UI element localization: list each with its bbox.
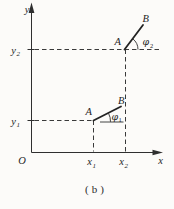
lower-angle-arc: [109, 113, 111, 122]
figure-caption: (b): [85, 183, 107, 196]
x1-label-sub: 1: [93, 162, 97, 170]
lower-point-a-label: A: [85, 106, 93, 117]
y2-label-base: y: [10, 45, 16, 56]
x2-label-base: x: [118, 156, 124, 167]
upper-point-b-label: B: [143, 13, 150, 24]
coordinate-diagram: y x O y 2 y 1 x 1 x 2 A B φ 2 A B φ 1 (b…: [0, 0, 174, 209]
lower-point-b-label: B: [118, 95, 125, 106]
upper-segment-ab: [125, 25, 144, 50]
x1-label-base: x: [86, 156, 92, 167]
y1-label-base: y: [10, 116, 16, 127]
x2-label-sub: 2: [125, 162, 129, 170]
x-axis-label: x: [157, 155, 163, 166]
y1-label-sub: 1: [17, 121, 21, 129]
lower-angle-label-base: φ: [112, 111, 119, 122]
upper-angle-label-base: φ: [143, 36, 150, 47]
y2-label-sub: 2: [17, 50, 21, 58]
lower-angle-label-sub: 1: [119, 116, 122, 123]
figure-panel: y x O y 2 y 1 x 1 x 2 A B φ 2 A B φ 1 (b…: [0, 0, 174, 209]
upper-point-a-label: A: [114, 36, 122, 47]
upper-angle-arc: [133, 39, 138, 50]
y-axis-label: y: [24, 4, 30, 15]
upper-angle-label-sub: 2: [150, 42, 153, 49]
origin-label: O: [18, 155, 26, 166]
